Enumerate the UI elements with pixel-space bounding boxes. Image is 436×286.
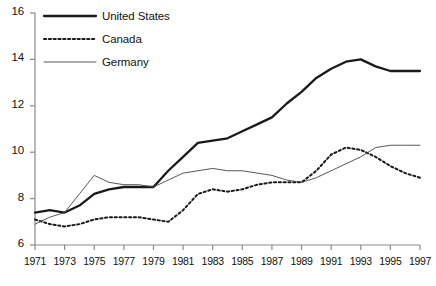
x-tick-label: 1971 [19,255,51,267]
series-line-germany [35,145,420,224]
x-tick-label: 1981 [167,255,199,267]
y-tick-label: 10 [2,144,24,156]
y-tick-label: 12 [2,98,24,110]
x-tick-label: 1993 [345,255,377,267]
x-tick-label: 1979 [137,255,169,267]
series-line-united-states [35,59,420,212]
x-tick-label: 1987 [256,255,288,267]
y-tick-label: 16 [2,5,24,17]
x-tick-label: 1989 [286,255,318,267]
chart-axes [30,13,420,250]
series-line-canada [35,148,420,227]
legend-label-canada: Canada [102,33,142,45]
y-tick-label: 6 [2,237,24,249]
y-tick-label: 8 [2,191,24,203]
x-tick-label: 1995 [374,255,406,267]
x-tick-label: 1977 [108,255,140,267]
legend-label-united-states: United States [102,10,170,22]
legend-label-germany: Germany [102,56,149,68]
x-tick-label: 1983 [197,255,229,267]
y-tick-label: 14 [2,51,24,63]
chart-series-group [35,59,420,226]
x-tick-label: 1997 [404,255,436,267]
x-tick-label: 1985 [226,255,258,267]
legend-swatches [44,16,96,62]
x-tick-label: 1991 [315,255,347,267]
x-tick-label: 1973 [49,255,81,267]
x-tick-label: 1975 [78,255,110,267]
